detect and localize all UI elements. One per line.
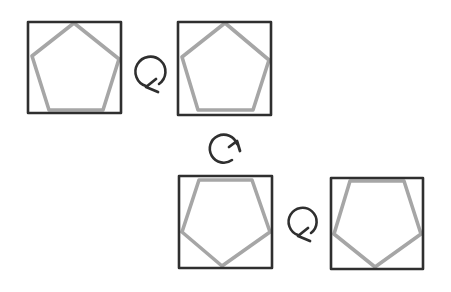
clockwise-rotate-arrow-icon bbox=[210, 135, 240, 163]
square-frame bbox=[179, 176, 272, 268]
pentagon-shape bbox=[182, 23, 269, 110]
clockwise-rotate-arrow-icon bbox=[289, 208, 317, 241]
square-panel-3 bbox=[179, 176, 272, 268]
squares-layer bbox=[28, 22, 423, 269]
pentagon-shape bbox=[182, 180, 270, 266]
pentagon-shape bbox=[32, 23, 119, 110]
arrow-arc bbox=[135, 57, 165, 86]
diagram-canvas bbox=[0, 0, 451, 292]
arrowhead bbox=[146, 79, 158, 92]
square-panel-2 bbox=[178, 22, 271, 115]
arrows-layer bbox=[135, 57, 316, 241]
arrowhead bbox=[229, 141, 240, 151]
arrow-arc bbox=[210, 135, 237, 163]
rotation-diagram bbox=[0, 0, 451, 292]
pentagon-shape bbox=[334, 181, 421, 267]
arrowhead bbox=[298, 228, 310, 241]
square-panel-4 bbox=[331, 178, 423, 269]
clockwise-rotate-arrow-icon bbox=[135, 57, 165, 92]
square-panel-1 bbox=[28, 22, 121, 113]
